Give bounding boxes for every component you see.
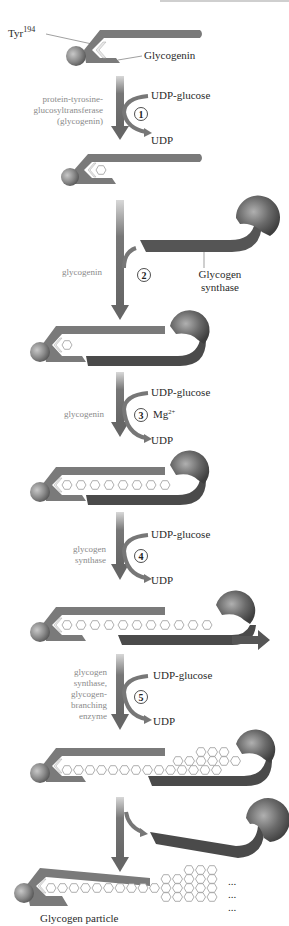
glucose-residue <box>62 481 72 490</box>
glucose-residue <box>207 893 217 902</box>
stage-1-glycogenin-glucose <box>61 154 202 186</box>
svg-text:(glycogenin): (glycogenin) <box>57 116 103 126</box>
step-2: 2 glycogenin <box>62 200 151 320</box>
glucose-residue <box>146 481 156 490</box>
glucose-residue <box>118 621 128 630</box>
svg-text:synthase: synthase <box>75 555 106 565</box>
glucose-residue <box>166 766 176 775</box>
glucose-residue <box>219 757 229 766</box>
glucose-residue <box>120 766 130 775</box>
glucose-residue <box>161 893 171 902</box>
svg-text:glucosyltransferase: glucosyltransferase <box>34 105 103 115</box>
svg-text:branching: branching <box>71 700 107 710</box>
glycogen-synthase-released <box>150 798 289 858</box>
svg-text:UDP-glucose: UDP-glucose <box>153 669 212 681</box>
glucose-residue <box>200 766 210 775</box>
glucose-residue <box>132 481 142 490</box>
tyr-label: Tyr194 <box>8 25 35 39</box>
stage-4-elongation <box>30 591 270 650</box>
glucose-residue <box>184 866 194 875</box>
glucose-residue <box>207 875 217 884</box>
glucose-residue <box>177 766 187 775</box>
glucose-chain <box>62 621 212 630</box>
glycogen-synthase-label-2: synthase <box>201 281 239 293</box>
glucose-residue <box>160 481 170 490</box>
svg-text:glycogen: glycogen <box>73 544 106 554</box>
glucose-residue <box>76 481 86 490</box>
glucose-residue <box>196 884 206 893</box>
stage-5-branching <box>30 730 275 786</box>
glucose-residue <box>207 884 217 893</box>
svg-text:glycogenin: glycogenin <box>62 267 102 277</box>
glucose-residue <box>208 748 218 757</box>
glucose-residue <box>74 766 84 775</box>
glycogenin-label: Glycogenin <box>144 49 196 61</box>
step-1: 1 UDP-glucose UDP protein-tyrosine- gluc… <box>34 76 211 146</box>
glucose-residue <box>118 481 128 490</box>
glucose-residue <box>231 757 241 766</box>
glucose-residue <box>58 884 68 893</box>
step-5: 5 UDP-glucose UDP glycogen synthase, gly… <box>71 654 212 730</box>
svg-text:UDP: UDP <box>151 574 173 586</box>
step-1-substrate: UDP-glucose <box>151 89 210 101</box>
svg-text:protein-tyrosine-: protein-tyrosine- <box>43 94 103 104</box>
glucose-residue <box>85 766 95 775</box>
svg-text:UDP: UDP <box>153 715 175 727</box>
glucose-residue <box>161 875 171 884</box>
glucose-residue <box>104 884 114 893</box>
glucose-residue <box>131 766 141 775</box>
svg-text:5: 5 <box>139 692 144 703</box>
glucose-residue <box>62 621 72 630</box>
glucose-residue <box>132 621 142 630</box>
glycogen-synthase-free: Glycogen synthase <box>140 196 280 293</box>
glucose-residue <box>196 893 206 902</box>
final-step <box>111 797 148 872</box>
svg-text:1: 1 <box>139 109 144 120</box>
glucose-residue <box>208 757 218 766</box>
clipped-header <box>160 0 289 2</box>
glucose-residue <box>62 766 72 775</box>
glucose-residue <box>161 884 171 893</box>
glucose-residue <box>219 748 229 757</box>
stage-0-glycogenin: Tyr194 Glycogenin <box>8 25 202 66</box>
glucose-residue <box>97 766 107 775</box>
svg-text:3: 3 <box>139 410 144 421</box>
svg-text:enzyme: enzyme <box>79 711 107 721</box>
glucose-residue <box>173 884 183 893</box>
glucose-residue <box>196 757 206 766</box>
glucose-residue <box>184 875 194 884</box>
glycogen-synthase-label-1: Glycogen <box>199 268 242 280</box>
svg-text:glycogenin: glycogenin <box>64 409 104 419</box>
svg-text:2: 2 <box>142 270 147 281</box>
glucose-residue <box>184 893 194 902</box>
glucose-residue <box>173 893 183 902</box>
glucose-residue <box>212 766 222 775</box>
svg-text:glycogen: glycogen <box>74 667 107 677</box>
step-1-product: UDP <box>151 134 173 146</box>
svg-text:4: 4 <box>139 551 144 562</box>
glycogen-synthesis-diagram: Tyr194 Glycogenin 1 UDP-glucose UDP prot… <box>0 0 289 926</box>
ellipsis-1: ... <box>228 875 237 887</box>
glucose-residue <box>46 884 56 893</box>
glycogen-particle: Glycogen particle ... ... ... <box>14 866 237 924</box>
svg-text:synthase,: synthase, <box>74 678 107 688</box>
glucose-residue <box>174 621 184 630</box>
svg-text:UDP: UDP <box>151 434 173 446</box>
glucose-residue <box>184 884 194 893</box>
glucose-residue <box>143 766 153 775</box>
glucose-residue <box>76 621 86 630</box>
glucose-residue <box>115 884 125 893</box>
glucose-residue <box>160 621 170 630</box>
glucose-residue <box>202 621 212 630</box>
glucose-residue <box>81 884 91 893</box>
stage-3-complex <box>30 451 209 505</box>
svg-text:UDP-glucose: UDP-glucose <box>151 386 210 398</box>
svg-text:glycogen-: glycogen- <box>71 689 107 699</box>
glucose-residue <box>150 884 160 893</box>
glucose-residue <box>92 884 102 893</box>
glucose-residue <box>185 757 195 766</box>
mg-cofactor: Mg2+ <box>153 408 176 420</box>
glucose-residue <box>127 884 137 893</box>
ellipsis-3: ... <box>228 901 237 913</box>
glycogen-particle-label: Glycogen particle <box>40 912 119 924</box>
